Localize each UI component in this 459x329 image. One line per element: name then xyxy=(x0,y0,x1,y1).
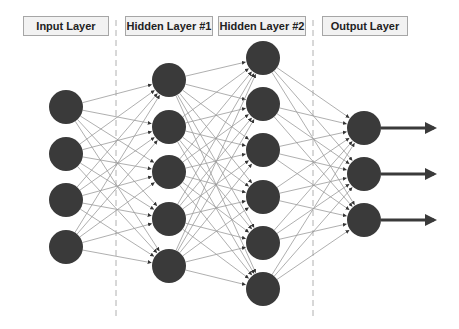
connection-edge xyxy=(176,74,256,250)
connection-edge xyxy=(83,157,152,169)
neuron-node xyxy=(152,63,186,97)
neuron-node xyxy=(246,41,280,75)
neuron-node xyxy=(152,155,186,189)
neuron-node xyxy=(49,230,83,264)
layer-label-input: Input Layer xyxy=(23,16,109,36)
neuron-node xyxy=(347,111,381,145)
neuron-node xyxy=(246,180,280,214)
network-canvas xyxy=(0,0,459,329)
neuron-node xyxy=(246,87,280,121)
connection-edge xyxy=(186,154,246,168)
neuron-node xyxy=(152,249,186,283)
nodes xyxy=(49,41,434,306)
connection-edge xyxy=(80,91,155,145)
neuron-node xyxy=(246,226,280,260)
connection-edge xyxy=(75,95,160,232)
layer-label-output: Output Layer xyxy=(322,16,408,36)
connection-edge xyxy=(186,270,246,285)
connection-edge xyxy=(186,62,246,76)
connection-edge xyxy=(77,141,157,234)
connection-edge xyxy=(77,94,157,187)
neuron-node xyxy=(49,183,83,217)
connection-edge xyxy=(80,183,155,237)
neuron-node xyxy=(347,203,381,237)
neuron-node xyxy=(152,110,186,144)
layer-label-hidden-2: Hidden Layer #2 xyxy=(218,16,306,36)
neuron-node xyxy=(152,202,186,236)
connection-edge xyxy=(280,154,347,170)
connection-edge xyxy=(83,250,152,263)
neuron-node xyxy=(246,272,280,306)
neuron-node xyxy=(49,137,83,171)
layer-label-hidden-1: Hidden Layer #1 xyxy=(125,16,213,36)
connection-edge xyxy=(82,224,151,243)
connection-edge xyxy=(180,185,252,275)
connection-edge xyxy=(82,177,151,196)
neuron-node xyxy=(49,90,83,124)
connection-edge xyxy=(180,72,252,159)
connection-edge xyxy=(185,84,245,99)
connection-edge xyxy=(186,247,246,262)
neuron-node xyxy=(347,157,381,191)
neuron-node xyxy=(246,133,280,167)
